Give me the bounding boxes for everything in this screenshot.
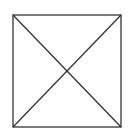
diagram-canvas	[0, 0, 130, 132]
crossed-box-diagram	[0, 0, 130, 132]
